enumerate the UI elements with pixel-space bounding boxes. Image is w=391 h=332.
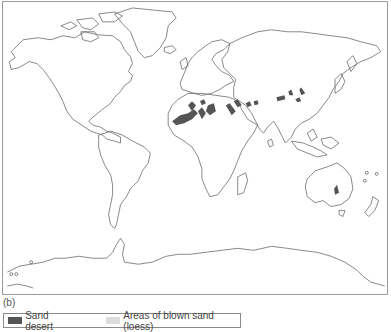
pacific-island: [375, 172, 378, 175]
australia-outline: [305, 163, 353, 207]
sahara-desert: [200, 99, 206, 105]
indonesia-outline: [291, 129, 339, 157]
legend-item-blown-sand: Areas of blown sand (loess): [106, 310, 240, 332]
gobi-desert: [288, 89, 293, 95]
new-zealand-outline: [365, 197, 379, 217]
south-atlantic-island: [30, 261, 33, 264]
greenland-outline: [115, 8, 177, 58]
australian-desert: [334, 185, 339, 195]
tasmania-outline: [339, 211, 345, 217]
panel-label: (b): [3, 297, 15, 308]
pacific-island: [363, 179, 366, 182]
sahara-desert: [198, 107, 206, 119]
antarctica-outline: [7, 238, 384, 286]
world-map-svg: [3, 2, 387, 294]
british-isles-outline: [180, 58, 188, 70]
world-map: [2, 1, 388, 295]
sand-desert-swatch: [8, 317, 22, 324]
sahara-desert: [206, 103, 216, 115]
asia-outline: [222, 30, 381, 143]
sri-lanka-outline: [268, 139, 274, 147]
south-atlantic-island: [10, 273, 13, 276]
pacific-island: [365, 171, 368, 174]
antarctica-west-outline: [7, 284, 33, 288]
north-america-outline: [9, 32, 132, 143]
map-legend: Sand desert Areas of blown sand (loess): [3, 313, 241, 328]
europe-outline: [180, 40, 234, 96]
legend-label-sand-desert: Sand desert: [25, 310, 76, 332]
arabian-desert: [226, 103, 236, 115]
legend-label-blown-sand: Areas of blown sand (loess): [123, 310, 240, 332]
sahara-desert: [188, 101, 196, 111]
madagascar-outline: [238, 173, 248, 195]
gobi-desert: [295, 97, 301, 102]
iceland-outline: [164, 46, 176, 54]
sahara-desert: [172, 109, 198, 125]
south-atlantic-island: [15, 273, 18, 276]
sand-desert-regions: [172, 87, 339, 194]
south-america-outline: [99, 131, 151, 228]
gobi-desert: [299, 87, 305, 95]
iran-desert: [254, 100, 259, 105]
blown-sand-swatch: [106, 317, 120, 324]
taklamakan-desert: [276, 95, 285, 101]
japan-outline: [335, 56, 357, 94]
legend-item-sand-desert: Sand desert: [8, 310, 76, 332]
